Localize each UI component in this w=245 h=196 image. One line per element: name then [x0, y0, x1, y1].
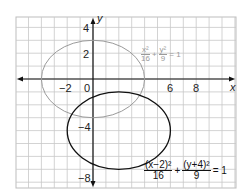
tick-label-y-minus8: −8	[78, 172, 91, 184]
tick-label-y-2: 2	[83, 48, 89, 60]
tick-label-x-6: 6	[167, 82, 173, 94]
fraction: x² 16	[141, 46, 150, 63]
tick-label-x-minus2: −2	[59, 82, 72, 94]
tick-label-x-0: 0	[84, 82, 90, 94]
y-axis-label: y	[97, 12, 103, 24]
equation-label-ellipse-2: (x−2)² 16 + (y+4)² 9 = 1	[144, 160, 229, 181]
tick-label-y-4: 4	[83, 22, 89, 34]
tick-label-x-8: 8	[193, 82, 199, 94]
plus-sign: +	[150, 50, 159, 59]
fraction: y² 9	[159, 46, 168, 63]
fraction: (x−2)² 16	[144, 160, 172, 181]
equals-one: = 1	[167, 50, 182, 59]
denominator: 16	[153, 171, 164, 181]
tick-label-y-minus4: −4	[78, 121, 91, 133]
x-axis-label: x	[230, 81, 236, 93]
denominator: 9	[194, 171, 200, 181]
fraction: (y+4)² 9	[182, 160, 210, 181]
equation-label-ellipse-1: x² 16 + y² 9 = 1	[141, 46, 183, 63]
plus-sign: +	[172, 165, 182, 176]
equals-one: = 1	[211, 165, 229, 176]
denominator: 9	[161, 55, 165, 63]
denominator: 16	[141, 55, 150, 63]
